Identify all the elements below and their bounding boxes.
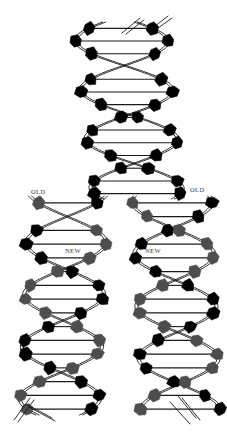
label-new-left: NEW [65,248,81,255]
figure-background [0,0,227,439]
dna-helix-illustration [0,0,227,439]
dna-replication-figure: OLD OLD NEW NEW [0,0,227,439]
label-old-left: OLD [31,189,46,196]
label-new-right: NEW [145,248,161,255]
label-old-right: OLD [190,187,205,194]
